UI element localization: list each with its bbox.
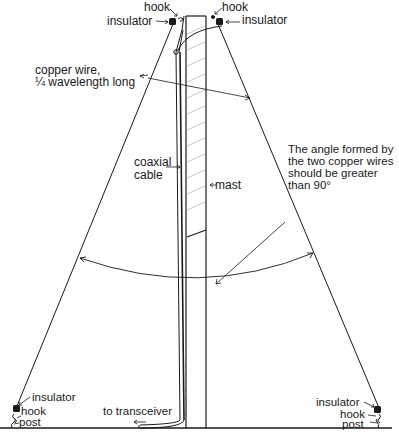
hook-top-left [178,18,183,22]
insulator-top-right [216,18,223,25]
angle-arc [80,253,313,278]
label-post-bottom-right: post [342,418,364,431]
label-copper-wire-line2: ¼ wavelength long [35,76,135,89]
copper-wire-right [218,24,379,408]
label-insulator-top-left: insulator [107,15,152,28]
antenna-diagram: hook insulator hook insulator copper wir… [0,0,399,439]
insulator-bottom-right [374,406,381,413]
label-to-transceiver: to transceiver [103,405,172,418]
label-angle-note: The angle formed by the two copper wires… [288,143,393,191]
hook-bottom-right [378,414,381,423]
label-post-bottom-left: post [19,416,41,429]
label-coaxial-cable: coaxial cable [134,156,171,182]
label-insulator-top-right: insulator [242,14,287,27]
label-mast: mast [215,179,241,192]
label-insulator-bottom-left: insulator [32,391,75,404]
mast [186,16,206,428]
posts [11,419,378,428]
label-hook-top-left: hook [144,1,170,14]
hook-top-right [212,16,215,19]
insulator-top-left [169,18,176,25]
insulator-bottom-left [13,405,20,412]
